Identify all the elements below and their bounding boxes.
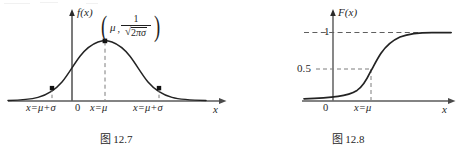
x-tick-label-mu: x=μ [90,103,107,114]
radicand: 2πσ [131,27,147,39]
y-axis-arrowhead [330,9,336,16]
y-axis-label: F(x) [338,7,357,18]
origin-label: 0 [75,103,80,114]
sqrt-icon: √ [125,26,131,37]
radicand-sigma: σ [141,27,146,38]
annotation-body: μ , 1 √2πσ [109,14,152,38]
fraction-numerator: 1 [132,14,141,25]
x-axis-label: x [442,104,447,115]
annotation-comma: , [118,24,121,34]
cdf-curve [304,33,451,99]
x-tick-label-mu-plus-sigma: x=μ+σ [133,103,163,114]
annotation-close-paren: ) [154,15,160,37]
pdf-curve [8,41,206,101]
figure-caption-12-8: 图 12.8 [232,130,464,146]
x-tick-label-mu-minus-sigma: x=μ+σ [26,103,56,114]
y-tick-label-half: 0.5 [297,63,311,74]
x-tick-label-mu: x=μ [354,103,371,114]
y-axis-label: f(x) [77,7,93,18]
figure-12-8: F(x) x 1 0.5 0 x=μ 图 12.8 [232,0,464,148]
point-marker-right-inflection [157,86,161,90]
fraction-denominator: √2πσ [123,26,149,39]
x-axis-label: x [213,104,218,115]
normal-cdf-plot [232,0,464,125]
x-axis-arrowhead [448,98,456,104]
annotation-fraction: 1 √2πσ [121,14,151,38]
annotation-mu: μ [110,22,117,33]
figure-sheet: f(x) x 0 x=μ+σ x=μ x=μ+σ ( μ , 1 √2πσ [0,0,464,148]
point-marker-left-inflection [50,86,54,90]
y-tick-label-one: 1 [324,26,330,37]
figure-caption-12-7: 图 12.7 [0,130,232,146]
origin-label: 0 [323,103,328,114]
annotation-open-paren: ( [101,15,107,37]
x-axis-arrowhead [219,98,227,104]
figure-12-7: f(x) x 0 x=μ+σ x=μ x=μ+σ ( μ , 1 √2πσ [0,0,232,148]
y-axis-arrowhead [69,9,75,16]
peak-coordinate-annotation: ( μ , 1 √2πσ ) [99,14,162,38]
